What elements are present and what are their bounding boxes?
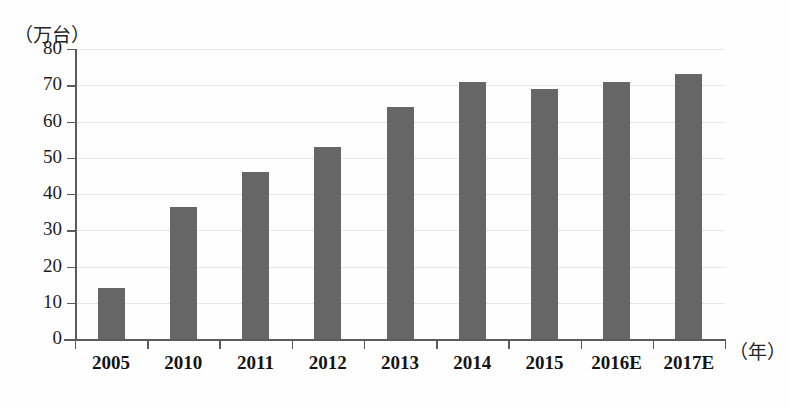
bar	[314, 147, 341, 339]
bar	[98, 288, 125, 339]
y-axis-tick-label: 80	[26, 37, 62, 59]
y-axis-tick-label: 0	[26, 327, 62, 349]
y-axis-tick	[67, 49, 76, 50]
bar	[387, 107, 414, 339]
y-axis-tick	[67, 230, 76, 231]
y-axis-tick-label: 20	[26, 255, 62, 277]
y-axis-tick	[67, 158, 76, 159]
x-axis-tick	[508, 340, 509, 349]
x-axis-tick	[725, 340, 726, 349]
x-axis-tick-label: 2015	[508, 352, 580, 374]
y-axis-tick	[67, 267, 76, 268]
y-axis-tick-label: 70	[26, 73, 62, 95]
y-axis-tick-label: 50	[26, 146, 62, 168]
y-axis-tick	[67, 194, 76, 195]
x-axis-tick	[147, 340, 148, 349]
bar	[459, 82, 486, 339]
x-axis-tick-label: 2005	[75, 352, 147, 374]
x-axis-tick-label: 2014	[436, 352, 508, 374]
bar	[531, 89, 558, 339]
y-axis-tick	[67, 303, 76, 304]
x-axis-tick	[436, 340, 437, 349]
y-axis-tick-label: 30	[26, 218, 62, 240]
x-axis-tick	[653, 340, 654, 349]
x-axis-tick	[364, 340, 365, 349]
x-axis-tick	[292, 340, 293, 349]
x-axis-tick-label: 2012	[292, 352, 364, 374]
x-axis-tick	[219, 340, 220, 349]
x-axis-unit-label: （年）	[729, 337, 786, 364]
bar	[242, 172, 269, 339]
x-axis-tick-label: 2011	[219, 352, 291, 374]
y-axis-tick-label: 60	[26, 110, 62, 132]
x-axis-tick-label: 2017E	[653, 352, 725, 374]
x-axis-line	[64, 339, 726, 341]
gridline	[75, 49, 725, 50]
plot-area	[75, 49, 725, 339]
x-axis-tick-label: 2016E	[581, 352, 653, 374]
x-axis-tick	[581, 340, 582, 349]
y-axis-tick-label: 40	[26, 182, 62, 204]
bar	[603, 82, 630, 339]
bar-chart-figure: （万台） （年） 01020304050607080 2005201020112…	[0, 0, 790, 409]
bar	[170, 207, 197, 339]
y-axis-tick	[67, 122, 76, 123]
x-axis-tick-label: 2013	[364, 352, 436, 374]
y-axis-tick-label: 10	[26, 291, 62, 313]
x-axis-tick-label: 2010	[147, 352, 219, 374]
bar	[675, 74, 702, 339]
x-axis-tick	[75, 340, 76, 349]
y-axis-tick	[67, 85, 76, 86]
